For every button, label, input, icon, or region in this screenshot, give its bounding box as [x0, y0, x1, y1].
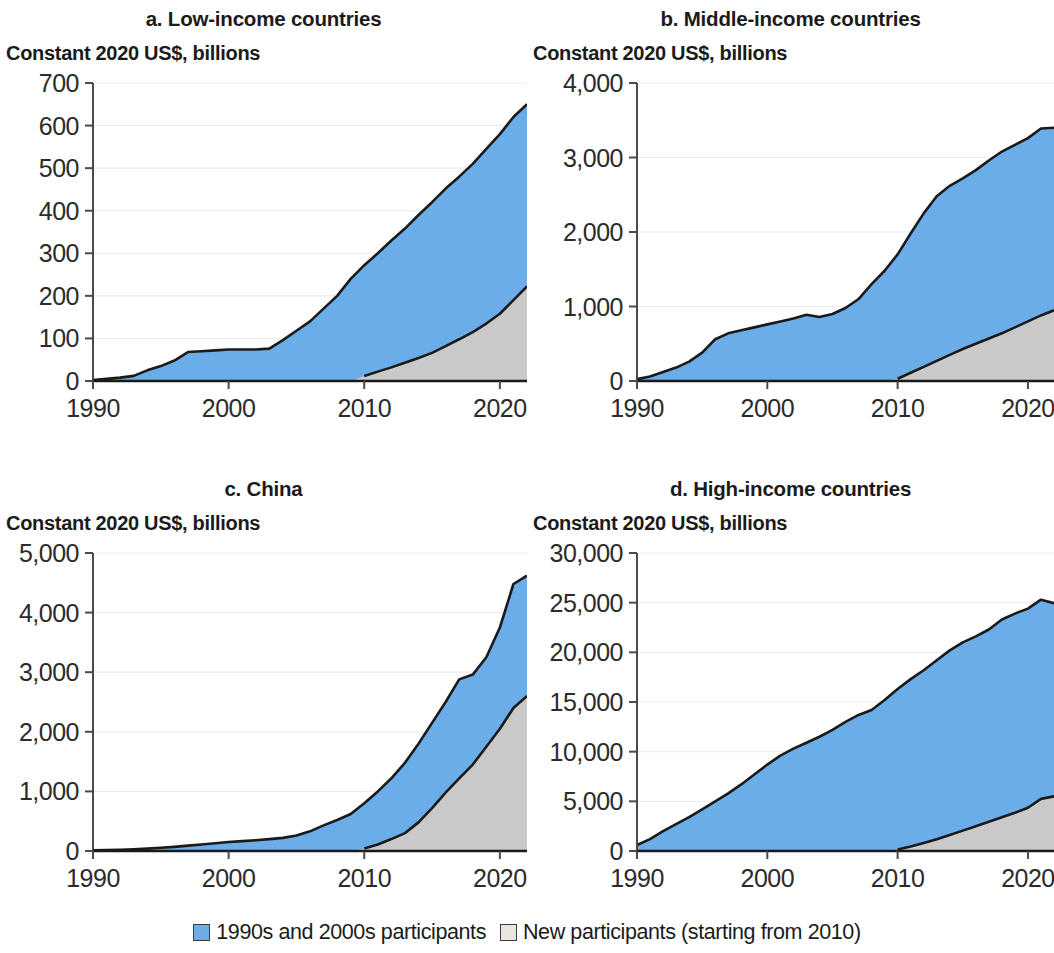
- svg-text:2010: 2010: [871, 394, 925, 422]
- svg-text:1990: 1990: [66, 394, 120, 422]
- panel-b-axis-unit: Constant 2020 US$, billions: [533, 40, 1054, 66]
- legend-label-new-participants: New participants (starting from 2010): [523, 920, 861, 945]
- panel-c-svg: 01,0002,0003,0004,0005,00019902000201020…: [0, 536, 527, 926]
- svg-text:2020: 2020: [473, 864, 527, 892]
- panel-d-high-income: d. High-income countries Constant 2020 U…: [527, 470, 1054, 925]
- panel-a-svg: 01002003004005006007001990200020102020: [0, 66, 527, 456]
- svg-text:300: 300: [39, 239, 79, 267]
- svg-text:1,000: 1,000: [19, 777, 79, 805]
- legend-swatch-gray-icon: [500, 924, 517, 941]
- chart-legend: 1990s and 2000s participants New partici…: [0, 912, 1054, 953]
- svg-text:1,000: 1,000: [563, 293, 623, 321]
- svg-text:15,000: 15,000: [550, 688, 623, 716]
- svg-text:2000: 2000: [202, 864, 256, 892]
- svg-text:700: 700: [39, 69, 79, 97]
- svg-text:1990: 1990: [610, 864, 664, 892]
- legend-swatch-blue-icon: [193, 924, 210, 941]
- svg-text:2020: 2020: [1001, 864, 1054, 892]
- svg-text:25,000: 25,000: [550, 589, 623, 617]
- svg-text:2000: 2000: [202, 394, 256, 422]
- panel-a-title: a. Low-income countries: [0, 6, 527, 32]
- svg-text:5,000: 5,000: [19, 539, 79, 567]
- panel-d-plot: 05,00010,00015,00020,00025,00030,0001990…: [527, 536, 1054, 926]
- svg-text:100: 100: [39, 324, 79, 352]
- svg-text:3,000: 3,000: [563, 144, 623, 172]
- legend-item-new-participants: New participants (starting from 2010): [500, 920, 861, 945]
- svg-text:500: 500: [39, 154, 79, 182]
- svg-text:20,000: 20,000: [550, 638, 623, 666]
- panel-b-title: b. Middle-income countries: [527, 6, 1054, 32]
- svg-text:5,000: 5,000: [563, 787, 623, 815]
- panel-a-axis-unit: Constant 2020 US$, billions: [6, 40, 527, 66]
- svg-text:2010: 2010: [337, 394, 391, 422]
- svg-text:0: 0: [66, 367, 79, 395]
- svg-text:2000: 2000: [741, 864, 795, 892]
- svg-text:30,000: 30,000: [550, 539, 623, 567]
- panel-c-title: c. China: [0, 476, 527, 502]
- svg-text:0: 0: [610, 367, 623, 395]
- panel-d-svg: 05,00010,00015,00020,00025,00030,0001990…: [527, 536, 1054, 926]
- svg-text:4,000: 4,000: [19, 599, 79, 627]
- panel-d-axis-unit: Constant 2020 US$, billions: [533, 510, 1054, 536]
- svg-text:2,000: 2,000: [563, 218, 623, 246]
- panel-a-plot: 01002003004005006007001990200020102020: [0, 66, 527, 456]
- svg-text:10,000: 10,000: [550, 738, 623, 766]
- svg-text:600: 600: [39, 112, 79, 140]
- svg-text:2010: 2010: [871, 864, 925, 892]
- panel-c-axis-unit: Constant 2020 US$, billions: [6, 510, 527, 536]
- svg-text:0: 0: [610, 837, 623, 865]
- figure-four-panel-area-charts: a. Low-income countries Constant 2020 US…: [0, 0, 1054, 953]
- svg-text:1990: 1990: [66, 864, 120, 892]
- svg-text:3,000: 3,000: [19, 658, 79, 686]
- svg-text:200: 200: [39, 282, 79, 310]
- svg-text:2020: 2020: [1001, 394, 1054, 422]
- svg-text:2020: 2020: [473, 394, 527, 422]
- panel-b-svg: 01,0002,0003,0004,0001990200020102020: [527, 66, 1054, 456]
- svg-text:2000: 2000: [741, 394, 795, 422]
- panel-c-plot: 01,0002,0003,0004,0005,00019902000201020…: [0, 536, 527, 926]
- panel-a-low-income: a. Low-income countries Constant 2020 US…: [0, 0, 527, 455]
- svg-text:1990: 1990: [610, 394, 664, 422]
- panel-c-china: c. China Constant 2020 US$, billions 01,…: [0, 470, 527, 925]
- svg-text:2010: 2010: [337, 864, 391, 892]
- panel-d-title: d. High-income countries: [527, 476, 1054, 502]
- svg-text:400: 400: [39, 197, 79, 225]
- panel-b-middle-income: b. Middle-income countries Constant 2020…: [527, 0, 1054, 455]
- svg-text:4,000: 4,000: [563, 69, 623, 97]
- legend-label-1990s-2000s: 1990s and 2000s participants: [216, 920, 486, 945]
- svg-text:2,000: 2,000: [19, 718, 79, 746]
- svg-text:0: 0: [66, 837, 79, 865]
- panel-b-plot: 01,0002,0003,0004,0001990200020102020: [527, 66, 1054, 456]
- legend-item-1990s-2000s-participants: 1990s and 2000s participants: [193, 920, 486, 945]
